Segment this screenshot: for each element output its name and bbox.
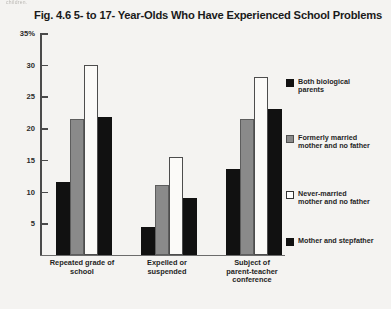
x-axis-baseline [40, 255, 285, 256]
legend-label: Both biological parents [298, 78, 350, 95]
category-label: Subject of parent-teacher conference [204, 259, 300, 285]
category-label: Repeated grade of school [34, 259, 130, 276]
bar [155, 185, 169, 255]
bar [98, 117, 112, 255]
bar [169, 157, 183, 255]
bar [70, 119, 84, 255]
legend-swatch-icon [286, 79, 294, 87]
legend-item[interactable]: Mother and stepfather [286, 237, 373, 246]
legend-label: Never-married mother and no father [298, 190, 370, 207]
legend-item[interactable]: Both biological parents [286, 78, 350, 95]
bar [268, 109, 282, 255]
chart-title: Fig. 4.6 5- to 17- Year-Olds Who Have Ex… [34, 9, 386, 21]
legend-label: Mother and stepfather [298, 237, 373, 245]
y-axis-tick-label: 20 [27, 124, 35, 133]
bar [56, 182, 70, 255]
plot-area: 35%30252015105 Repeated grade of schoolE… [40, 33, 285, 255]
bar [84, 65, 98, 255]
y-axis-tick-label: 5 [31, 219, 35, 228]
y-axis-tick-label: 30 [27, 60, 35, 69]
y-axis-tick-label: 15 [27, 155, 35, 164]
legend-swatch-icon [286, 238, 294, 246]
legend-swatch-icon [286, 191, 294, 199]
legend-item[interactable]: Never-married mother and no father [286, 190, 370, 207]
y-axis-tick-label: 25 [27, 92, 35, 101]
y-axis-tick-label: 35% [20, 29, 35, 38]
legend-label: Formerly married mother and no father [298, 134, 370, 151]
bar-groups [42, 33, 285, 255]
bar [183, 198, 197, 255]
legend-item[interactable]: Formerly married mother and no father [286, 134, 370, 151]
bar [240, 119, 254, 255]
bar-group [226, 33, 282, 255]
bar-group [141, 33, 197, 255]
scan-artifact-text: children. [6, 0, 28, 5]
y-axis-tick-label: 10 [27, 187, 35, 196]
legend-swatch-icon [286, 135, 294, 143]
bar [254, 77, 268, 255]
bar [226, 169, 240, 255]
bar [141, 227, 155, 256]
category-label: Expelled or suspended [119, 259, 215, 276]
bar-group [56, 33, 112, 255]
